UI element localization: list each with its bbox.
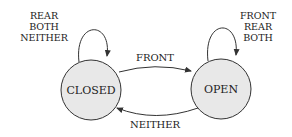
self-loop-open-label-2: REAR	[244, 21, 273, 32]
self-loop-closed-label-1: REAR	[30, 10, 59, 21]
state-closed-label: CLOSED	[66, 84, 115, 97]
transition-arrow-front	[119, 67, 191, 72]
state-closed: CLOSED	[61, 60, 121, 120]
state-open-label: OPEN	[204, 83, 238, 96]
self-loop-closed	[79, 30, 108, 62]
transition-label-neither: NEITHER	[130, 119, 181, 130]
self-loop-open	[208, 28, 237, 61]
self-loop-open-label-3: BOTH	[243, 32, 273, 43]
state-open: OPEN	[191, 59, 251, 119]
transition-label-front: FRONT	[136, 52, 174, 63]
state-diagram: CLOSED OPEN FRONT NEITHER REAR BOTH NEIT…	[0, 0, 292, 137]
self-loop-closed-label-3: NEITHER	[20, 32, 69, 43]
transition-arrow-neither	[117, 108, 198, 116]
self-loop-closed-label-2: BOTH	[29, 21, 59, 32]
self-loop-open-label-1: FRONT	[240, 10, 277, 21]
